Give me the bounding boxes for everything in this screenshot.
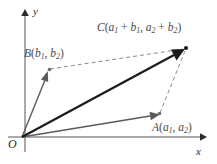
- x-axis-arrowhead: [200, 133, 207, 141]
- point-label-b: B(b1, b2): [24, 48, 64, 61]
- vector-ob-arrowhead: [41, 71, 48, 82]
- label-a-name: A: [152, 121, 159, 133]
- dashed-edge-bc: [50, 49, 183, 69]
- label-a-close: ): [188, 121, 192, 133]
- label-b-name: B: [24, 47, 31, 59]
- point-a-dot: [158, 112, 162, 116]
- point-c-dot: [184, 46, 188, 50]
- y-axis-arrowhead: [21, 9, 29, 16]
- label-c-plus1: +: [118, 21, 130, 33]
- point-label-a: A(a1, a2): [152, 122, 192, 135]
- point-b-dot: [48, 68, 52, 72]
- label-c-name: C: [97, 21, 105, 33]
- label-c-close: ): [177, 21, 181, 33]
- point-label-c: C(a1 + b1, a2 + b2): [97, 22, 181, 35]
- x-axis-label: x: [196, 146, 201, 157]
- label-c-plus2: +: [155, 21, 167, 33]
- origin-label: O: [8, 138, 17, 150]
- label-b-close: ): [60, 47, 64, 59]
- vector-addition-figure: C(a1 + b1, a2 + b2) B(b1, b2) A(a1, a2) …: [0, 0, 217, 164]
- y-axis-label: y: [33, 6, 38, 17]
